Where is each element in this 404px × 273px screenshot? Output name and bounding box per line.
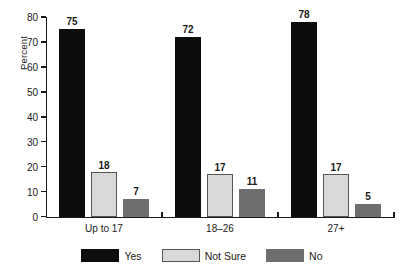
y-axis-tick: 20 (41, 166, 46, 167)
y-axis-tick-label: 10 (27, 186, 38, 197)
bar[interactable]: 18 (91, 172, 117, 217)
y-axis-tick-label: 20 (27, 161, 38, 172)
x-axis-group-separator (277, 212, 278, 218)
bar[interactable]: 7 (123, 199, 149, 216)
y-axis-tick: 10 (41, 191, 46, 192)
y-axis-tick: 40 (41, 116, 46, 117)
legend-item[interactable]: Not Sure (162, 249, 246, 262)
legend-swatch-yes (81, 249, 119, 262)
bar-chart: Percent 01020304050607080 75187721711781… (0, 0, 404, 273)
legend-item-label: No (309, 250, 322, 262)
legend-item-label: Yes (124, 250, 141, 262)
plot-area: 01020304050607080 7518772171178175 (46, 17, 394, 218)
legend-item-label: Not Sure (205, 250, 246, 262)
bar-value-label: 18 (98, 160, 109, 171)
y-axis-tick-label: 80 (27, 12, 38, 23)
bar-value-label: 72 (182, 24, 193, 35)
y-axis-tick: 0 (41, 216, 46, 217)
legend-item[interactable]: No (266, 249, 322, 262)
bar-value-label: 78 (298, 9, 309, 20)
legend-item[interactable]: Yes (81, 249, 141, 262)
y-axis-line (46, 17, 47, 218)
y-axis-tick-label: 50 (27, 86, 38, 97)
bar-value-label: 17 (214, 162, 225, 173)
y-axis-tick-label: 40 (27, 111, 38, 122)
bar[interactable]: 75 (59, 29, 85, 216)
bar-value-label: 11 (247, 176, 258, 187)
x-axis-line (46, 217, 394, 218)
y-axis-tick: 70 (41, 41, 46, 42)
bar[interactable]: 17 (207, 174, 233, 216)
x-axis-category-label: 18–26 (162, 223, 278, 234)
bar[interactable]: 72 (175, 37, 201, 217)
bar[interactable]: 78 (291, 22, 317, 217)
legend-swatch-no (266, 249, 304, 262)
bar-value-label: 17 (330, 162, 341, 173)
y-axis-tick: 60 (41, 66, 46, 67)
bar[interactable]: 5 (355, 204, 381, 216)
y-axis-tick: 50 (41, 91, 46, 92)
y-axis-tick-label: 30 (27, 136, 38, 147)
x-axis-category-label: Up to 17 (46, 223, 162, 234)
bar-value-label: 7 (133, 186, 139, 197)
y-axis-tick-label: 0 (32, 211, 38, 222)
y-axis-tick: 80 (41, 16, 46, 17)
y-axis-tick-label: 60 (27, 61, 38, 72)
bar[interactable]: 17 (323, 174, 349, 216)
x-axis-group-separator (393, 212, 394, 218)
bar[interactable]: 11 (239, 189, 265, 216)
x-axis-category-label: 27+ (278, 223, 394, 234)
legend-swatch-not-sure (162, 249, 200, 262)
chart-legend: YesNot SureNo (0, 249, 404, 262)
y-axis-tick: 30 (41, 141, 46, 142)
y-axis-tick-label: 70 (27, 36, 38, 47)
bar-value-label: 5 (365, 191, 371, 202)
x-axis-group-separator (161, 212, 162, 218)
bar-value-label: 75 (66, 16, 77, 27)
